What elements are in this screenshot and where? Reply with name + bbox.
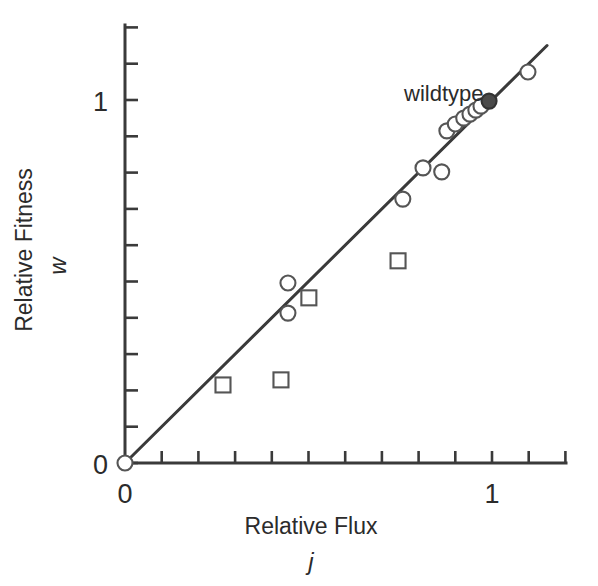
scatter-plot: wildtype 0 1 0 1 Relative Flux j Relativ… — [0, 0, 598, 586]
x-tick-label-0: 0 — [117, 479, 132, 509]
x-axis-ticks — [162, 451, 566, 463]
data-point-circle — [416, 160, 431, 175]
data-point-square — [301, 290, 316, 305]
y-axis-ticks — [125, 27, 138, 463]
data-point-wildtype — [482, 94, 497, 109]
data-point-square — [273, 372, 288, 387]
data-point-circle — [280, 275, 295, 290]
data-point-circle — [395, 192, 410, 207]
data-point-circle — [118, 456, 133, 471]
y-tick-label-0: 0 — [93, 450, 108, 480]
data-point-circle — [280, 306, 295, 321]
annotation-wildtype: wildtype — [403, 81, 483, 106]
figure-container: wildtype 0 1 0 1 Relative Flux j Relativ… — [0, 0, 598, 586]
x-axis-variable: j — [305, 548, 314, 575]
data-point-circle — [434, 164, 449, 179]
y-axis-title: Relative Fitness — [11, 168, 37, 332]
wildtype-label: wildtype — [403, 81, 483, 106]
data-point-square — [391, 253, 406, 268]
y-tick-label-1: 1 — [93, 87, 108, 117]
data-point-circle — [520, 65, 535, 80]
x-axis-title: Relative Flux — [245, 513, 378, 539]
x-tick-label-1: 1 — [484, 479, 499, 509]
data-point-square — [215, 377, 230, 392]
y-axis-variable: w — [44, 256, 71, 275]
